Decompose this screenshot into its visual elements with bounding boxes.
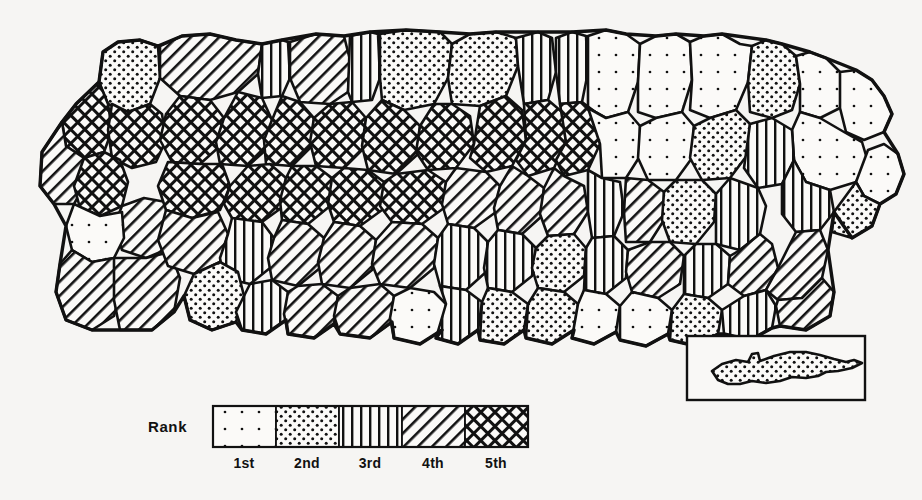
legend-tick-1st: 1st (233, 455, 254, 471)
legend-swatch-1st[interactable] (213, 406, 276, 447)
legend-tick-2nd: 2nd (294, 455, 320, 471)
legend-tick-3rd: 3rd (359, 455, 382, 471)
legend-tick-4th: 4th (422, 455, 444, 471)
legend-swatch-5th[interactable] (465, 406, 528, 447)
region-r11[interactable] (348, 32, 380, 102)
region-r33[interactable] (556, 32, 588, 104)
legend-swatch-2nd[interactable] (276, 406, 339, 447)
region-r17[interactable] (748, 40, 800, 118)
legend-swatch-4th[interactable] (402, 406, 465, 447)
region-r09[interactable] (258, 40, 290, 98)
region-r13[interactable] (448, 32, 518, 106)
rank-choropleth-map: Rank 1st 2nd 3rd 4th 5th (0, 0, 922, 500)
legend-title: Rank (148, 418, 187, 435)
legend-swatch-3rd[interactable] (339, 406, 402, 447)
inset-panel (687, 336, 865, 400)
legend-swatches (213, 406, 528, 447)
legend-tick-5th: 5th (485, 455, 507, 471)
figure-root: Rank 1st 2nd 3rd 4th 5th (0, 0, 922, 500)
region-r32[interactable] (516, 32, 556, 104)
region-r10[interactable] (290, 34, 350, 104)
region-r15[interactable] (638, 34, 692, 118)
